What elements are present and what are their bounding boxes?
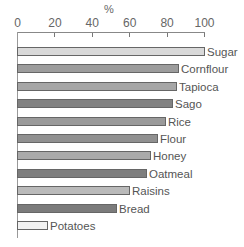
bar-bread xyxy=(17,204,117,213)
bar-sago xyxy=(17,99,173,108)
bar-potatoes xyxy=(17,221,48,230)
bar-cornflour xyxy=(17,64,179,73)
bar-honey xyxy=(17,151,151,160)
x-tick-label: 80 xyxy=(160,16,173,30)
bar-label: Rice xyxy=(168,117,191,127)
x-axis-line xyxy=(17,32,205,33)
x-tick-label: 0 xyxy=(14,16,21,30)
bar-tapioca xyxy=(17,82,177,91)
bar-label: Bread xyxy=(119,204,150,214)
bar-label: Honey xyxy=(153,151,186,161)
x-axis-unit-label: % xyxy=(104,3,114,15)
bar-label: Tapioca xyxy=(179,82,219,92)
bar-label: Sago xyxy=(175,99,202,109)
bar-label: Flour xyxy=(160,134,186,144)
bar-oatmeal xyxy=(17,169,147,178)
bar-label: Raisins xyxy=(132,186,170,196)
bar-label: Cornflour xyxy=(181,64,228,74)
x-tick-label: 20 xyxy=(48,16,61,30)
bar-label: Oatmeal xyxy=(149,169,192,179)
bar-rice xyxy=(17,117,166,126)
bar-raisins xyxy=(17,186,130,195)
bar-label: Sugar xyxy=(207,47,238,57)
x-tick-label: 40 xyxy=(86,16,99,30)
bar-flour xyxy=(17,134,158,143)
bar-sugar xyxy=(17,47,205,56)
x-tick-label: 100 xyxy=(194,16,214,30)
x-tick-label: 60 xyxy=(123,16,136,30)
bar-label: Potatoes xyxy=(50,221,95,231)
